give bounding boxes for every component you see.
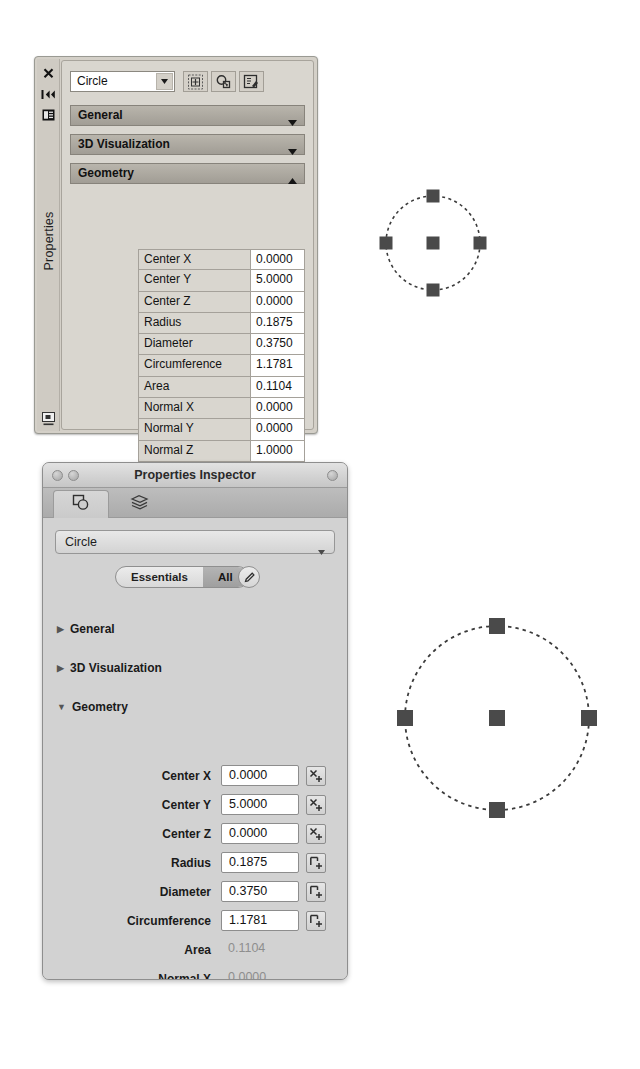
pick-point-icon[interactable] [306,766,326,786]
chevron-right-icon: ▶ [57,663,64,673]
chevron-up-icon[interactable] [288,171,297,190]
section-header-general[interactable]: General [70,105,305,126]
inspector-body: Circle Essentials All ▶ General [43,518,347,980]
property-key: Center Y [138,270,251,291]
table-row[interactable]: Center Z 0.0000 [138,292,305,313]
circle-preview-large [382,603,612,833]
field-row-center-y: Center Y 5.0000 [43,790,347,819]
field-label: Normal X [43,972,221,981]
table-row[interactable]: Normal X 0.0000 [138,398,305,419]
section-label: General [70,622,115,636]
property-value[interactable]: 1.0000 [251,441,305,462]
field-label: Circumference [43,914,221,928]
property-value[interactable]: 0.0000 [251,419,305,440]
select-object-icon[interactable] [183,71,208,92]
property-key: Center Z [138,292,251,313]
palette-properties-icon[interactable] [40,411,57,427]
quick-properties-icon[interactable] [239,71,264,92]
field-row-area: Area 0.1104 [43,935,347,964]
section-label: Geometry [78,166,134,180]
table-row[interactable]: Radius 0.1875 [138,313,305,334]
table-row[interactable]: Center X 0.0000 [138,249,305,270]
property-value[interactable]: 0.1104 [251,377,305,398]
chevron-down-icon[interactable] [288,113,297,132]
section-label: 3D Visualization [70,661,162,675]
property-value[interactable]: 0.0000 [251,292,305,313]
pick-point-icon[interactable] [306,795,326,815]
section-header-geometry[interactable]: ▼ Geometry [57,700,128,714]
field-row-center-x: Center X 0.0000 [43,761,347,790]
object-type-value: Circle [65,535,97,549]
field-row-circumference: Circumference 1.1781 [43,906,347,935]
chevron-down-icon[interactable] [156,73,173,90]
area-value: 0.1104 [221,939,299,960]
tab-layers[interactable] [111,490,167,518]
palette-vertical-title: Properties [42,207,56,275]
pick-point-icon[interactable] [306,824,326,844]
table-row[interactable]: Normal Y 0.0000 [138,419,305,440]
circle-preview-small [368,178,498,308]
object-type-value: Circle [77,74,108,88]
table-row[interactable]: Center Y 5.0000 [138,270,305,291]
center-z-input[interactable]: 0.0000 [221,823,299,844]
center-x-input[interactable]: 0.0000 [221,765,299,786]
table-row[interactable]: Circumference 1.1781 [138,355,305,376]
property-key: Circumference [138,355,251,376]
field-label: Center Z [43,827,221,841]
diameter-input[interactable]: 0.3750 [221,881,299,902]
property-value[interactable]: 5.0000 [251,270,305,291]
chevron-down-icon[interactable] [318,540,325,562]
chevron-down-icon[interactable] [288,142,297,161]
auto-hide-pin-icon[interactable] [40,86,57,102]
panel-menu-icon[interactable] [40,107,57,123]
pick-distance-icon[interactable] [306,853,326,873]
table-row[interactable]: Normal Z 1.0000 [138,441,305,462]
field-label: Center Y [43,798,221,812]
field-label: Center X [43,769,221,783]
section-header-3d-visualization[interactable]: ▶ 3D Visualization [57,661,162,675]
object-type-select[interactable]: Circle [55,530,335,554]
section-header-3d-visualization[interactable]: 3D Visualization [70,134,305,155]
tab-objects[interactable] [53,490,109,518]
section-header-geometry[interactable]: Geometry [70,163,305,184]
zoom-button[interactable] [327,470,338,481]
property-key: Normal Z [138,441,251,462]
circumference-input[interactable]: 1.1781 [221,910,299,931]
table-row[interactable]: Area 0.1104 [138,377,305,398]
field-row-diameter: Diameter 0.3750 [43,877,347,906]
field-row-radius: Radius 0.1875 [43,848,347,877]
property-value[interactable]: 1.1781 [251,355,305,376]
shapes-icon [72,494,90,515]
normal-x-value: 0.0000 [221,968,299,980]
property-key: Area [138,377,251,398]
view-mode-segmented-control: Essentials All [115,566,249,588]
segment-essentials[interactable]: Essentials [116,567,203,587]
property-key: Normal X [138,398,251,419]
center-y-input[interactable]: 5.0000 [221,794,299,815]
property-value[interactable]: 0.1875 [251,313,305,334]
chevron-down-icon: ▼ [57,702,66,712]
property-value[interactable]: 0.0000 [251,249,305,270]
pick-distance-icon[interactable] [306,911,326,931]
close-icon[interactable] [40,65,57,81]
layers-icon [130,494,149,514]
property-key: Radius [138,313,251,334]
geometry-fields: Center X 0.0000 Center Y 5.0000 [43,761,347,980]
minimize-button[interactable] [68,470,79,481]
table-row[interactable]: Diameter 0.3750 [138,334,305,355]
window-title-bar[interactable]: Properties Inspector [43,463,347,488]
screenshot-root: Properties Circle [0,0,640,1069]
windows-properties-palette: Properties Circle [34,56,318,434]
object-type-combo[interactable]: Circle [70,71,175,92]
section-label: 3D Visualization [78,137,170,151]
property-value[interactable]: 0.3750 [251,334,305,355]
close-button[interactable] [52,470,63,481]
property-value[interactable]: 0.0000 [251,398,305,419]
section-label: General [78,108,123,122]
section-header-general[interactable]: ▶ General [57,622,115,636]
quick-select-icon[interactable] [211,71,236,92]
radius-input[interactable]: 0.1875 [221,852,299,873]
pick-distance-icon[interactable] [306,882,326,902]
pencil-icon[interactable] [238,566,260,588]
palette-content: Circle [61,60,314,430]
